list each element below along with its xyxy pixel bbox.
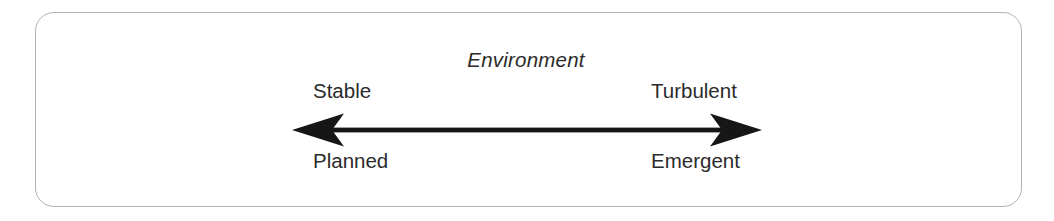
environment-continuum-diagram: Environment Stable Turbulent Planned Eme…: [0, 0, 1054, 221]
label-emergent: Emergent: [651, 151, 740, 172]
label-stable: Stable: [313, 81, 371, 102]
label-turbulent: Turbulent: [651, 81, 737, 102]
diagram-canvas: Environment Stable Turbulent Planned Eme…: [0, 0, 1054, 221]
label-planned: Planned: [313, 151, 388, 172]
double-headed-arrow-icon: [292, 108, 762, 152]
axis-title: Environment: [0, 50, 1053, 71]
